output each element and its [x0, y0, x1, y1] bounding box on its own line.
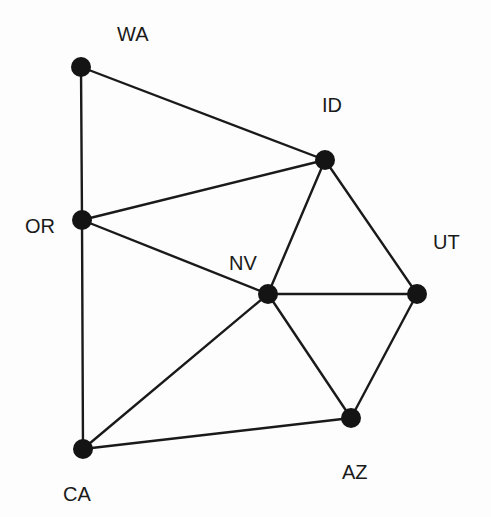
- node-az: [341, 408, 361, 428]
- node-label-id: ID: [322, 95, 342, 115]
- node-nv: [258, 284, 278, 304]
- edge-id-nv: [268, 160, 325, 294]
- edge-or-id: [82, 160, 325, 220]
- node-label-ca: CA: [63, 484, 91, 504]
- edge-wa-id: [81, 67, 325, 160]
- node-or: [72, 210, 92, 230]
- edge-wa-or: [81, 67, 82, 220]
- node-ut: [407, 284, 427, 304]
- edge-nv-az: [268, 294, 351, 418]
- node-label-nv: NV: [229, 253, 257, 273]
- edge-nv-ca: [83, 294, 268, 449]
- node-id: [315, 150, 335, 170]
- edge-ut-az: [351, 294, 417, 418]
- edge-ca-az: [83, 418, 351, 449]
- node-label-ut: UT: [433, 232, 460, 252]
- node-ca: [73, 439, 93, 459]
- node-label-az: AZ: [342, 462, 368, 482]
- edge-id-ut: [325, 160, 417, 294]
- edge-or-ca: [82, 220, 83, 449]
- node-wa: [71, 57, 91, 77]
- node-label-or: OR: [25, 216, 55, 236]
- state-adjacency-graph: WAIDORNVUTAZCA: [0, 0, 491, 517]
- node-label-wa: WA: [117, 24, 148, 44]
